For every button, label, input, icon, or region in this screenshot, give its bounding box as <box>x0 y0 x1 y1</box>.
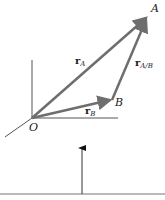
x-axis <box>5 118 32 137</box>
relative-position-diagram: A B O rA rB rA/B <box>0 0 165 200</box>
label-r-b: rB <box>85 105 95 118</box>
label-b: B <box>114 96 123 109</box>
label-r-a: rA <box>75 55 85 68</box>
label-r-a-b: rA/B <box>135 57 153 70</box>
label-a: A <box>150 2 159 15</box>
label-o: O <box>29 121 38 134</box>
vector-r-a <box>32 18 146 118</box>
